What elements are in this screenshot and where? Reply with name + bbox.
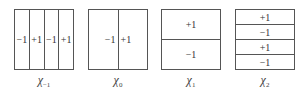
label-chi-1: χ1 bbox=[161, 73, 221, 89]
label-chi-minus-1: χ−1 bbox=[14, 73, 74, 89]
panel-chi-1: +1 −1 bbox=[161, 9, 221, 70]
cell: +1 bbox=[236, 39, 294, 54]
label-chi-0: χ0 bbox=[88, 73, 148, 89]
cell: +1 bbox=[236, 10, 294, 24]
panel-chi-minus-1: −1 +1 −1 +1 bbox=[14, 9, 74, 70]
cell: −1 bbox=[162, 39, 220, 69]
cell: +1 bbox=[162, 10, 220, 39]
cell: −1 bbox=[44, 10, 59, 69]
cell: +1 bbox=[58, 10, 73, 69]
label-chi-2: χ2 bbox=[235, 73, 295, 89]
panel-chi-0: −1 +1 bbox=[88, 9, 148, 70]
cell: +1 bbox=[29, 10, 44, 69]
cell: −1 bbox=[89, 10, 118, 69]
cell: −1 bbox=[15, 10, 29, 69]
panel-chi-2: +1 −1 +1 −1 bbox=[235, 9, 295, 70]
cell: −1 bbox=[236, 54, 294, 69]
cell: −1 bbox=[236, 24, 294, 39]
cell: +1 bbox=[118, 10, 148, 69]
